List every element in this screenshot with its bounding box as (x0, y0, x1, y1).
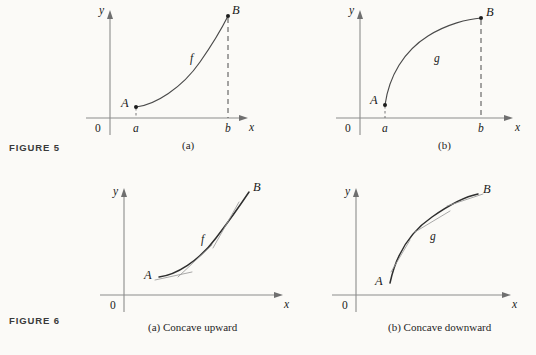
figure-5b-point-b (479, 16, 483, 20)
figure-6b-label-a: A (374, 274, 383, 288)
figure-6a-x-axis-label: x (283, 298, 290, 310)
figure-5a-y-axis-arrow (107, 10, 113, 19)
figure-5b-panel: y x 0 a b A B g (336, 4, 521, 135)
figure-6b-panel: y x 0 A B g (332, 182, 518, 312)
figure-5b-tick-a: a (382, 122, 388, 134)
figure-5a-x-axis-label: x (248, 121, 255, 133)
figure-5b-label-a: A (369, 93, 378, 107)
figure-5b-x-axis-label: x (514, 121, 521, 133)
figure-6b-tangent-2 (415, 211, 450, 232)
figure-5a-label-a: A (120, 96, 129, 110)
figure-5b-y-axis-arrow (357, 10, 363, 19)
figure-5b-tick-b: b (478, 122, 484, 134)
figure-5b-y-axis-label: y (348, 4, 355, 17)
figure-plots: y x 0 a b A B f y x 0 a b A (0, 0, 536, 355)
figure-6a-curve-label: f (201, 233, 206, 246)
figure-5a-origin-label: 0 (95, 122, 101, 134)
figure-5b-curve (385, 18, 481, 105)
figure-5a-label-b: B (232, 3, 240, 17)
figure-5b-x-axis-arrow (504, 115, 513, 121)
figure-6b-origin-label: 0 (342, 299, 348, 311)
figure-6b-tangent-1 (391, 240, 410, 272)
figure-5a-point-a (134, 105, 138, 109)
figure-6b-y-axis-label: y (344, 185, 351, 198)
figure-6b-x-axis-arrow (502, 292, 511, 298)
figure-6a-x-axis-arrow (274, 292, 283, 298)
figure-6a-label-a: A (143, 268, 152, 282)
figure-6b-x-axis-label: x (511, 298, 518, 310)
figure-5b-point-a (383, 103, 387, 107)
figure-6a-tangent-3 (213, 202, 239, 248)
figure-5a-curve (136, 16, 228, 107)
figure-5b-label-b: B (486, 5, 494, 19)
figure-5b-curve-label: g (434, 52, 440, 65)
figure-6b-tangent-3 (447, 194, 483, 206)
figure-5a-x-axis-arrow (239, 115, 248, 121)
figure-6a-panel: y x 0 A B f (100, 180, 290, 312)
figure-6a-origin-label: 0 (110, 299, 116, 311)
figure-6a-y-axis-arrow (121, 188, 127, 197)
figure-5b-origin-label: 0 (345, 122, 351, 134)
figure-6a-tangent-2 (178, 245, 212, 277)
figure-6b-label-b: B (483, 182, 491, 196)
figure-5a-y-axis-label: y (98, 4, 105, 17)
figure-6a-label-b: B (253, 180, 261, 194)
figure-5a-tick-b: b (225, 122, 231, 134)
figure-6a-y-axis-label: y (112, 185, 119, 198)
figure-6b-curve-label: g (430, 230, 436, 243)
figure-5a-curve-label: f (190, 52, 195, 65)
figure-5a-panel: y x 0 a b A B f (86, 3, 255, 135)
figure-6b-y-axis-arrow (353, 188, 359, 197)
figure-5a-point-b (226, 14, 230, 18)
figure-5a-tick-a: a (133, 122, 139, 134)
figure-page: FIGURE 5 (a) (b) FIGURE 6 (a) Concave up… (0, 0, 536, 355)
